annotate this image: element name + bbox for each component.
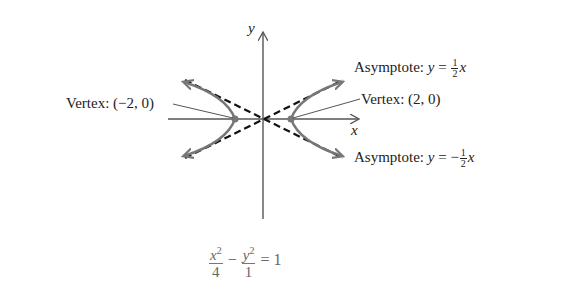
x-axis-label: x [351, 122, 358, 139]
asymptote-positive-label: Asymptote: y = 12x [354, 58, 466, 79]
vertex-left-label: Vertex: (−2, 0) [66, 95, 154, 112]
hyperbola-right-branch [291, 82, 342, 119]
vertex-left-leader [173, 104, 233, 118]
vertex-right-label: Vertex: (2, 0) [361, 91, 441, 108]
vertex-left-point [232, 116, 239, 123]
hyperbola-graph [0, 0, 565, 307]
vertex-right-point [288, 116, 295, 123]
hyperbola-right-branch-lower [291, 119, 342, 156]
y-axis-label: y [248, 20, 255, 37]
asymptote-negative-label: Asymptote: y = −12x [354, 148, 475, 169]
hyperbola-equation: x24 − y21 = 1 [208, 243, 281, 280]
